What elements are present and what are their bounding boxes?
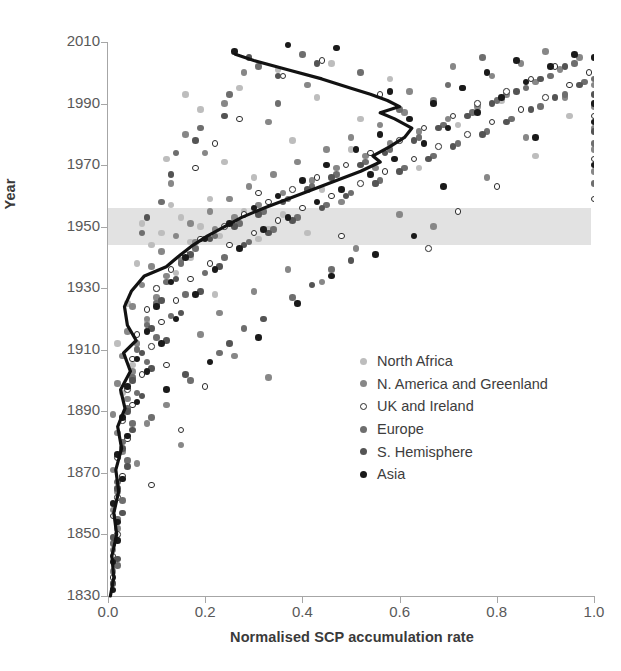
x-tick-mark [497,597,498,603]
data-point [192,291,199,298]
data-point [221,113,228,120]
data-point [591,76,594,83]
scatter-plot-area [108,42,594,596]
data-point [231,48,238,55]
data-point [255,211,262,218]
data-point [309,282,316,289]
data-point [192,137,199,144]
y-tick-mark [101,227,107,228]
data-point [158,319,165,326]
data-point [158,297,165,304]
y-tick-label: 1930 [36,278,100,295]
data-point [202,150,209,157]
data-point [523,79,530,86]
data-point [328,60,335,67]
data-point [566,113,573,120]
x-tick-label: 0.8 [467,603,527,620]
y-tick-mark [101,534,107,535]
data-point [357,180,364,187]
legend-item[interactable]: Asia [356,463,586,486]
legend-marker-icon [356,380,370,387]
data-point [148,482,155,489]
data-point [377,122,384,129]
y-tick-label: 1890 [36,401,100,418]
data-point [396,168,403,175]
data-point [119,353,126,360]
legend-item[interactable]: Europe [356,418,586,441]
data-point [110,411,117,418]
y-tick-label: 1950 [36,217,100,234]
data-point [445,82,452,89]
chart-container: Year 20101990197019501930191018901870185… [0,0,621,671]
data-point [216,350,223,357]
x-axis-line [108,596,595,597]
data-point [187,220,194,227]
data-point [440,183,447,190]
data-point [285,42,292,48]
data-point [148,414,155,421]
y-tick-mark [101,104,107,105]
data-point [212,266,219,273]
y-axis-tick-labels: 2010199019701950193019101890187018501830 [34,0,100,671]
data-point [513,88,520,95]
data-point [421,140,428,147]
data-point [532,153,539,160]
legend: North AfricaN. America and GreenlandUK a… [356,350,586,486]
data-point [148,343,155,350]
data-point [153,303,160,310]
legend-label: S. Hemisphere [377,444,473,460]
data-point [328,193,335,200]
y-tick-mark [101,596,107,597]
data-point [338,199,345,206]
data-point [202,383,209,390]
y-tick-mark [101,473,107,474]
data-point [114,537,121,544]
data-point [144,368,151,375]
data-point [265,119,272,126]
data-point [251,174,258,181]
data-point [129,377,136,384]
data-point [124,408,131,415]
legend-item[interactable]: N. America and Greenland [356,373,586,396]
data-point [139,230,146,237]
data-point [464,131,471,138]
data-point [314,94,321,101]
data-point [294,300,301,307]
data-point [304,186,311,193]
data-point [562,91,569,98]
data-point [474,100,481,107]
data-point [571,60,578,67]
data-point [134,356,141,363]
y-tick-mark [101,350,107,351]
data-point [586,69,593,76]
legend-label: Asia [377,466,405,482]
data-point [119,497,126,504]
x-tick-label: 0.4 [272,603,332,620]
data-point [396,137,403,144]
data-point [110,580,117,587]
data-point [226,242,233,249]
data-point [489,100,496,107]
data-point [455,208,462,215]
data-point [367,171,374,178]
data-point [547,73,554,80]
data-point [338,186,345,193]
data-point [163,386,170,393]
data-point [591,100,594,107]
data-point [537,76,544,83]
y-tick-label: 1910 [36,340,100,357]
data-point [182,291,189,298]
data-point [197,331,204,338]
x-axis-title: Normalised SCP accumulation rate [110,629,594,645]
legend-item[interactable]: UK and Ireland [356,395,586,418]
data-point [255,63,262,70]
data-point [144,420,151,427]
legend-item[interactable]: S. Hemisphere [356,440,586,463]
data-point [450,143,457,150]
data-point [114,340,121,347]
data-point [377,131,384,138]
data-point [134,399,141,406]
data-point [129,303,136,310]
data-point [221,100,228,107]
legend-item[interactable]: North Africa [356,350,586,373]
